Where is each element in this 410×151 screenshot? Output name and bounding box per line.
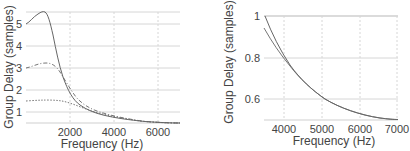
right-ytick-0.6: 0.6 [245,93,260,105]
right-y-axis-label: Group Delay (samples) [222,0,236,123]
left-chart: 5 4 3 2 1 2000 4000 6000 Frequency (Hz) … [2,5,180,151]
right-chart: 1 0.8 0.6 4000 5000 6000 7000 Frequency … [222,0,409,148]
right-x-axis-label: Frequency (Hz) [293,134,376,148]
left-curve-solid [26,12,180,123]
left-ytick-1: 1 [16,106,22,118]
right-xtick-7000: 7000 [385,123,409,135]
right-ytick-1: 1 [254,10,260,22]
left-grid [26,12,180,123]
left-y-axis-label: Group Delay (samples) [2,5,16,128]
left-xtick-6000: 6000 [146,126,170,138]
left-y-ticks: 5 4 3 2 1 [16,18,22,118]
left-x-axis-label: Frequency (Hz) [61,137,144,151]
left-ytick-3: 3 [16,62,22,74]
right-grid [264,16,398,120]
left-ytick-4: 4 [16,40,22,52]
right-y-ticks: 1 0.8 0.6 [245,10,260,105]
left-ytick-2: 2 [16,84,22,96]
right-curve-solid [265,16,398,120]
figure: 5 4 3 2 1 2000 4000 6000 Frequency (Hz) … [0,0,410,151]
left-ytick-5: 5 [16,18,22,30]
right-ytick-0.8: 0.8 [245,52,260,64]
